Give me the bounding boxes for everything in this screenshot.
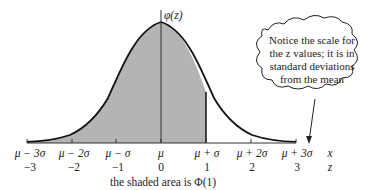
caption: the shaded area is Φ(1): [110, 176, 216, 189]
svg-text:standard deviations: standard deviations: [269, 60, 354, 72]
svg-text:μ + 3σ: μ + 3σ: [281, 147, 314, 160]
svg-text:μ − σ: μ − σ: [105, 147, 132, 160]
svg-text:μ + 2σ: μ + 2σ: [236, 147, 269, 160]
svg-text:3: 3: [294, 161, 300, 173]
arrowhead-icon: [306, 136, 312, 144]
svg-text:−1: −1: [112, 161, 124, 173]
svg-text:μ − 3σ: μ − 3σ: [14, 147, 47, 160]
normal-curve-diagram: φ(z) μ − 3σ μ − 2σ μ − σ μ μ + σ μ + 2σ …: [0, 0, 381, 190]
svg-text:from the mean: from the mean: [280, 73, 345, 85]
svg-text:μ − 2σ: μ − 2σ: [58, 147, 91, 160]
callout-text: Notice the scale for the z values; it is…: [269, 34, 355, 85]
svg-text:−3: −3: [24, 161, 36, 173]
svg-text:2: 2: [249, 161, 255, 173]
svg-text:−2: −2: [68, 161, 80, 173]
svg-text:1: 1: [204, 161, 210, 173]
x-tick-labels: μ − 3σ μ − 2σ μ − σ μ μ + σ μ + 2σ μ + 3…: [14, 147, 334, 160]
svg-text:μ: μ: [157, 147, 164, 160]
svg-text:0: 0: [158, 161, 164, 173]
callout-arrow: [309, 99, 315, 141]
svg-text:z: z: [327, 161, 333, 173]
svg-text:the z values; it is in: the z values; it is in: [269, 47, 355, 59]
z-tick-labels: −3 −2 −1 0 1 2 3 z: [24, 161, 333, 173]
svg-text:Notice the scale for: Notice the scale for: [269, 34, 355, 46]
svg-text:x: x: [326, 147, 333, 159]
shaded-area: [27, 22, 206, 143]
svg-text:μ + σ: μ + σ: [194, 147, 221, 160]
y-axis-label: φ(z): [164, 9, 183, 22]
